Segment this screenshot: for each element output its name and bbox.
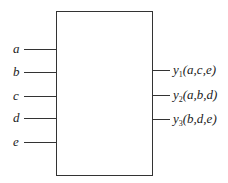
input-wire-b	[24, 72, 56, 73]
logic-block	[56, 11, 153, 176]
input-wire-e	[24, 142, 56, 143]
input-wire-a	[24, 49, 56, 50]
input-wire-c	[24, 96, 56, 97]
input-label-e: e	[13, 135, 19, 148]
input-wire-d	[24, 118, 56, 119]
output-label-y2: y2(a,b,d)	[173, 88, 217, 106]
output-label-y1: y1(a,c,e)	[173, 63, 216, 81]
input-label-d: d	[13, 111, 20, 124]
output-label-y3: y3(b,d,e)	[173, 112, 217, 130]
output-wire-y2	[153, 95, 170, 96]
output-wire-y1	[153, 70, 170, 71]
input-label-c: c	[13, 89, 19, 102]
output-wire-y3	[153, 119, 170, 120]
input-label-b: b	[13, 65, 20, 78]
input-label-a: a	[13, 42, 20, 55]
